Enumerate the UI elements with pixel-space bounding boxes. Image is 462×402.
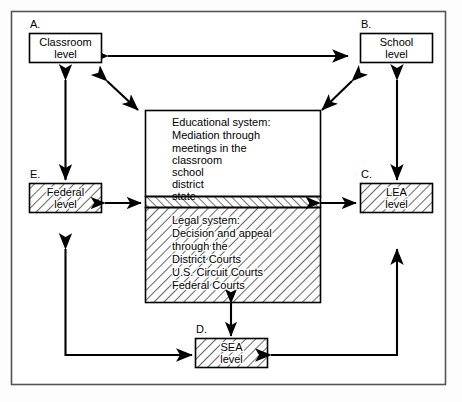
node-d-label-1: SEA: [220, 341, 243, 353]
node-caption-b: B.: [361, 18, 371, 30]
node-caption-d: D.: [196, 323, 207, 335]
legal-heading: Legal system:: [172, 214, 240, 226]
node-caption-c: C.: [361, 168, 372, 180]
node-a-label-1: Classroom: [39, 36, 92, 48]
node-caption-a: A.: [30, 18, 40, 30]
legal-line-5: Federal Courts: [172, 279, 245, 291]
educational-line-1: Mediation through: [172, 129, 260, 141]
educational-line-6: state: [172, 190, 196, 202]
node-e-label-2: level: [54, 198, 77, 210]
node-d-label-2: level: [220, 353, 243, 365]
diagram-canvas: Educational system: Mediation through me…: [0, 0, 462, 402]
node-a-label-2: level: [54, 48, 77, 60]
legal-line-4: U.S. Circuit Courts: [172, 266, 264, 278]
node-c-label-2: level: [385, 198, 408, 210]
legal-line-1: Decision and appeal: [172, 227, 272, 239]
educational-line-5: district: [172, 178, 204, 190]
center-panel: Educational system: Mediation through me…: [146, 111, 321, 303]
educational-line-4: school: [172, 166, 204, 178]
educational-heading: Educational system:: [172, 116, 270, 128]
node-c-label-1: LEA: [386, 186, 407, 198]
node-b-label-2: level: [385, 48, 408, 60]
node-b-label-1: School: [380, 36, 414, 48]
educational-line-2: meetings in the: [172, 142, 247, 154]
legal-line-2: through the: [172, 240, 228, 252]
diagram-svg: Educational system: Mediation through me…: [0, 0, 462, 402]
educational-line-3: classroom: [172, 154, 222, 166]
legal-line-3: District Courts: [172, 253, 242, 265]
node-caption-e: E.: [30, 168, 40, 180]
node-e-label-1: Federal: [47, 186, 84, 198]
